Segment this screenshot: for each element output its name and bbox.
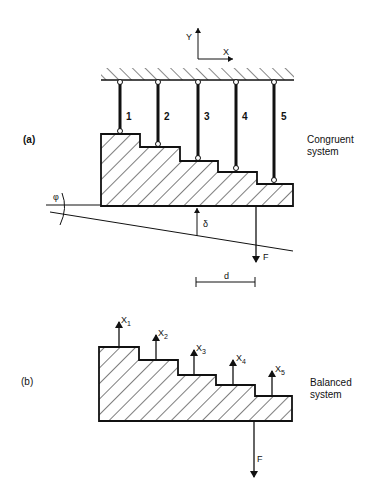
delta-label: δ: [203, 219, 208, 229]
hinge-icon: [196, 80, 201, 85]
force-x3-label: X3: [196, 343, 206, 355]
rod-label-1: 1: [126, 111, 132, 122]
hinge-icon: [272, 178, 277, 183]
hinge-icon: [118, 129, 123, 134]
rod-label-4: 4: [242, 111, 248, 122]
diagram-canvas: Y X 1 2: [0, 0, 377, 497]
hinge-icon: [234, 166, 239, 171]
stepped-block-b: [99, 347, 292, 421]
rod-label-5: 5: [281, 111, 287, 122]
hinge-icon: [118, 80, 123, 85]
force-x5-label: X5: [275, 364, 285, 376]
panel-b-caption-line1: Balanced: [310, 377, 352, 388]
panel-a-caption-line2: system: [307, 146, 339, 157]
hinge-icon: [234, 80, 239, 85]
panel-b-label: (b): [21, 376, 33, 387]
hinge-icon: [272, 80, 277, 85]
force-x2-label: X2: [158, 328, 168, 340]
force-x4-label: X4: [236, 353, 246, 365]
distance-label: d: [224, 271, 229, 281]
angle-phi-label: φ: [53, 192, 59, 202]
angle-arc: [60, 193, 65, 225]
panel-a-label: (a): [23, 134, 35, 145]
panel-b-caption-line2: system: [310, 389, 342, 400]
rod-label-3: 3: [204, 111, 210, 122]
ceiling-hatch: [101, 68, 294, 80]
coordinate-axes: Y X: [186, 28, 233, 59]
hinge-icon: [196, 156, 201, 161]
panel-a-caption-line1: Congruent: [307, 134, 354, 145]
hinge-icon: [156, 142, 161, 147]
force-x1-label: X1: [121, 315, 131, 327]
force-label-b: F: [257, 454, 263, 464]
panel-a: 1 2 3 4 5 (a) Congruent system φ δ F d: [23, 68, 354, 287]
x-axis-label: X: [223, 47, 229, 57]
y-axis-label: Y: [186, 32, 192, 42]
force-label-a: F: [263, 252, 269, 262]
hinge-icon: [156, 80, 161, 85]
panel-b: X1 X2 X3 X4 X5 F (b) Balanced system: [21, 315, 352, 477]
rod-label-2: 2: [164, 111, 170, 122]
